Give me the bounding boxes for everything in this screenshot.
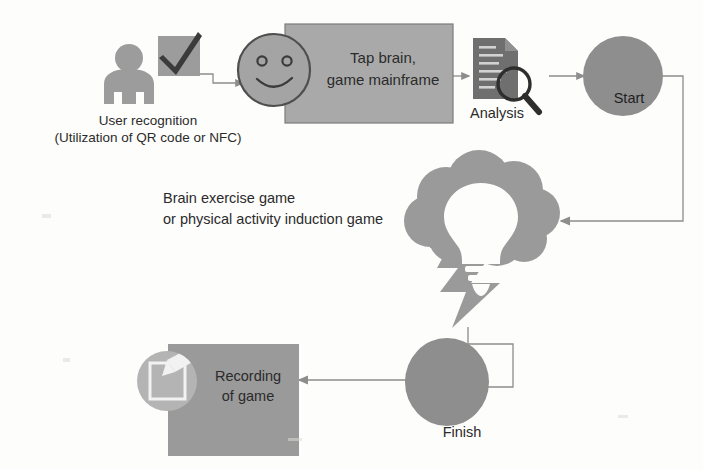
scan-speck <box>618 415 628 418</box>
smiley-face-icon <box>238 34 310 106</box>
brain-game-label-line1: Brain exercise game <box>163 190 295 206</box>
start-label: Start <box>591 89 667 107</box>
analysis-label: Analysis <box>461 104 533 122</box>
checkmark-box-icon <box>158 32 202 76</box>
recording-label-line2: of game <box>222 388 274 404</box>
recording-label-line1: Recording <box>215 368 281 384</box>
user-recognition-label-line1: User recognition <box>99 113 197 128</box>
scan-speck <box>63 358 70 362</box>
user-recognition-label-line2: (Utilization of QR code or NFC) <box>55 130 242 145</box>
tap-brain-label: Tap brain,game mainframe <box>318 47 448 91</box>
document-magnifier-icon <box>473 38 539 112</box>
brain-lightbulb-lightning-icon <box>404 150 560 328</box>
recording-label: Recordingof game <box>196 366 300 407</box>
scan-speck <box>288 438 302 441</box>
process-flow-diagram: User recognition(Utilization of QR code … <box>0 0 703 469</box>
brain-game-label-line2: or physical activity induction game <box>163 211 383 227</box>
finish-label: Finish <box>418 423 506 441</box>
finish-circle[interactable] <box>405 338 489 426</box>
user-recognition-label: User recognition(Utilization of QR code … <box>28 113 268 147</box>
brain-game-label: Brain exercise gameor physical activity … <box>163 188 383 230</box>
person-icon <box>104 44 154 104</box>
tap-brain-label-line1: Tap brain, <box>350 49 416 66</box>
tap-brain-label-line2: game mainframe <box>327 71 440 88</box>
scan-speck <box>42 214 51 218</box>
